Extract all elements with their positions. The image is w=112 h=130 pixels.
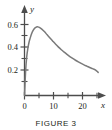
x-tick-label-20: 20	[78, 101, 87, 111]
x-tick-label-0: 0	[22, 101, 26, 111]
y-axis-arrowhead	[21, 5, 28, 13]
y-tick-label-0.2: 0.2	[7, 65, 18, 75]
y-tick-label-0.4: 0.4	[7, 42, 18, 52]
figure-container: 0.2 0.4 0.6 0 10 20 y x FIGURE 3	[0, 0, 112, 130]
plot-area: 0.2 0.4 0.6 0 10 20 y x	[0, 0, 112, 118]
data-curve	[25, 27, 99, 96]
x-axis-arrowhead	[98, 92, 106, 99]
figure-caption: FIGURE 3	[0, 119, 112, 128]
x-tick-label-10: 10	[49, 101, 58, 111]
y-tick-label-0.6: 0.6	[7, 20, 18, 30]
y-axis-label: y	[29, 4, 34, 14]
x-axis-label: x	[100, 100, 105, 110]
